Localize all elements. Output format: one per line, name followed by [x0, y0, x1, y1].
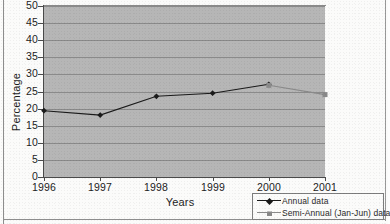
- diamond-glyph: [266, 198, 273, 205]
- data-point-marker: [323, 92, 328, 97]
- legend-label-annual: Annual data: [282, 196, 328, 206]
- data-point-marker: [266, 83, 271, 88]
- series-line-annual: [44, 84, 269, 115]
- square-marker-icon: [256, 207, 282, 218]
- chart-legend: Annual data Semi-Annual (Jan-Jun) data: [252, 193, 384, 220]
- data-point-marker: [97, 112, 103, 118]
- legend-label-semi-annual: Semi-Annual (Jan-Jun) data: [282, 208, 390, 218]
- data-point-marker: [154, 93, 160, 99]
- data-point-marker: [41, 108, 47, 114]
- series-line-semi-annual: [269, 85, 325, 94]
- square-glyph: [266, 210, 273, 217]
- data-point-marker: [210, 90, 216, 96]
- diamond-marker-icon: [256, 195, 282, 206]
- legend-item-annual: Annual data: [256, 195, 328, 206]
- legend-item-semi-annual: Semi-Annual (Jan-Jun) data: [256, 207, 390, 218]
